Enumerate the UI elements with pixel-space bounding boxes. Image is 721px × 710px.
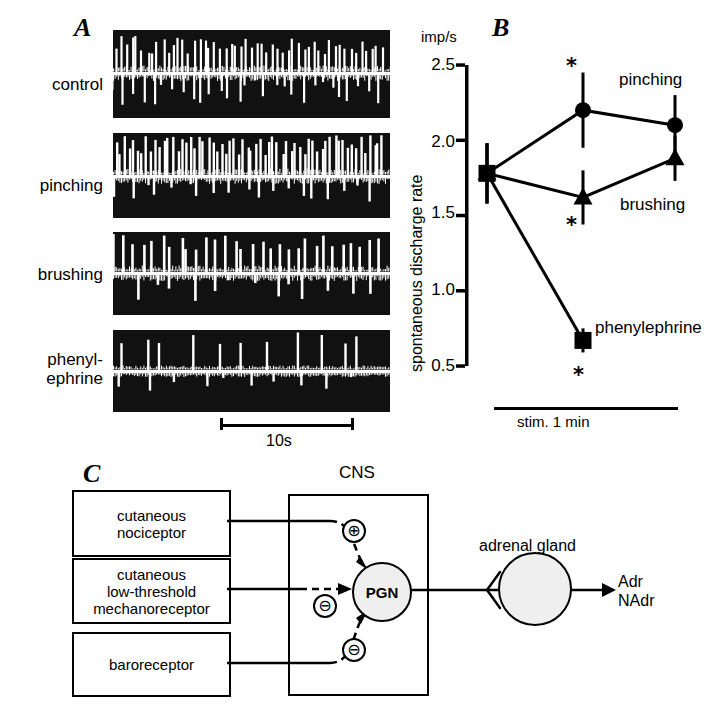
trace-label-phenylephrine-line1: phenyl- <box>0 350 103 369</box>
output-nadr: NAdr <box>618 591 654 610</box>
stimulus-bar <box>494 407 678 410</box>
neurogram-trace-control <box>113 30 390 118</box>
neurogram-trace-pinching <box>113 133 390 218</box>
series-label-phenylephrine: phenylephrine <box>595 318 702 338</box>
trace-label-phenylephrine-line2: ephrine <box>0 369 103 388</box>
panel-a-letter: A <box>74 13 91 43</box>
series-label-pinching: pinching <box>619 70 682 90</box>
pgn-node: PGN <box>352 562 412 622</box>
minus-sign-icon-baroreceptor: ⊖ <box>342 638 366 662</box>
minus-sign-icon-mechanoreceptor: ⊖ <box>313 594 337 618</box>
series-label-brushing: brushing <box>620 195 685 215</box>
trace-label-brushing: brushing <box>0 265 103 285</box>
output-adr: Adr <box>618 572 654 591</box>
significance-star-pinching: * <box>566 56 577 77</box>
scalebar-tick-left <box>220 418 223 430</box>
trace-label-control: control <box>0 75 103 95</box>
pgn-label: PGN <box>366 584 399 601</box>
panel-b-letter: B <box>492 13 509 43</box>
trace-label-pinching: pinching <box>0 176 103 196</box>
y-axis-unit-label: imp/s <box>421 28 457 45</box>
significance-star-phenylephrine: * <box>573 365 584 386</box>
output-hormones: Adr NAdr <box>618 572 654 610</box>
trace-label-phenylephrine: phenyl- ephrine <box>0 350 103 388</box>
neurogram-trace-brushing <box>113 232 390 315</box>
adrenal-gland-node <box>498 552 572 626</box>
stimulus-bar-label: stim. 1 min <box>517 413 590 430</box>
figure-root: A control pinching brushing phenyl- ephr… <box>0 0 721 710</box>
scalebar-line <box>220 424 354 427</box>
plus-sign-icon: ⊕ <box>342 519 366 543</box>
neurogram-trace-phenylephrine <box>113 330 390 412</box>
significance-star-brushing: * <box>566 215 577 236</box>
scalebar-tick-right <box>351 418 354 430</box>
